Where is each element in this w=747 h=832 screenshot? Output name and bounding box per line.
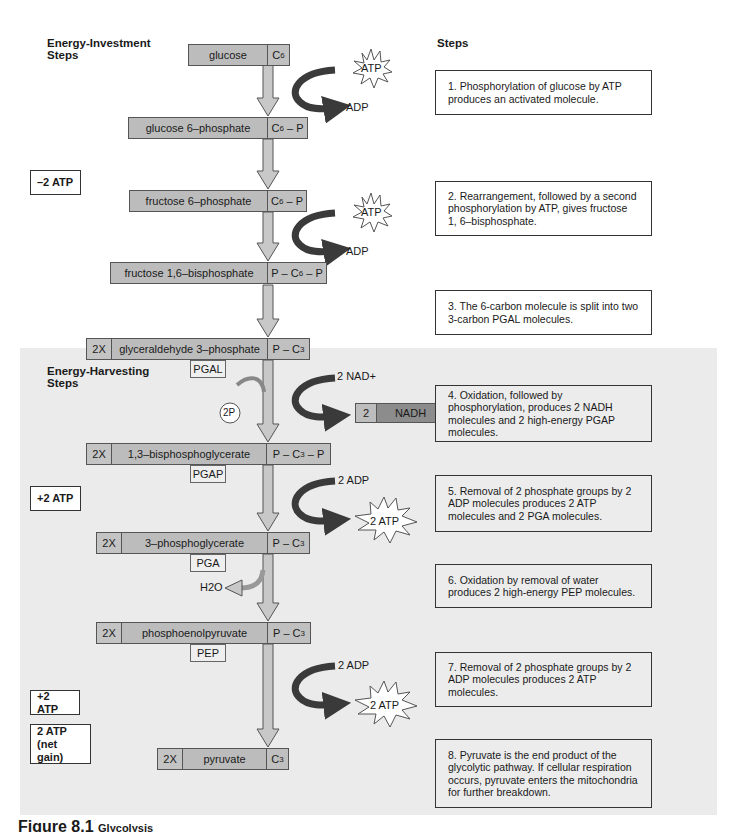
step-7-box: 7. Removal of 2 phosphate groups by 2 AD… xyxy=(435,652,652,707)
abbr-pep: PEP xyxy=(190,644,226,662)
nadh-label: NADH xyxy=(376,404,444,422)
water-output-label: H2O xyxy=(200,581,223,593)
atp-tally-harvest-2: +2 ATP xyxy=(30,690,80,715)
figure-caption: Figure 8.1 Glycolysis xyxy=(18,818,153,832)
curved-arrow-5 xyxy=(295,666,340,705)
step-5-box: 5. Removal of 2 phosphate groups by 2 AD… xyxy=(435,475,652,532)
nad-input-label: 2 NAD+ xyxy=(337,370,376,382)
formula: P – C3 xyxy=(267,339,309,359)
atp-input-label-1: ATP xyxy=(361,62,382,74)
step-2-box: 2. Rearrangement, followed by a second p… xyxy=(435,181,652,236)
phosphate-input-label: 2P xyxy=(223,407,235,418)
curved-arrow-1 xyxy=(295,70,340,109)
formula: C3 xyxy=(266,749,288,769)
abbr-pgal: PGAL xyxy=(190,360,226,378)
adp-input-label-2: 2 ADP xyxy=(338,659,369,671)
molecule-phosphoenolpyruvate: 2X phosphoenolpyruvate P – C3 xyxy=(96,622,311,644)
molecule-glyceraldehyde-3-phosphate: 2X glyceraldehyde 3–phosphate P – C3 xyxy=(86,338,310,360)
curved-arrow-3 xyxy=(295,378,340,417)
molecule-1-3-bisphosphoglycerate: 2X 1,3–bisphosphoglycerate P – C3 – P xyxy=(86,443,331,465)
molecule-fructose-1-6-bisphosphate: fructose 1,6–bisphosphate P – C6 – P xyxy=(110,262,327,284)
atp-tally-investment: –2 ATP xyxy=(30,170,81,195)
molecule-pyruvate: 2X pyruvate C3 xyxy=(157,748,289,770)
molecule-3-phosphoglycerate: 2X 3–phosphoglycerate P – C3 xyxy=(96,532,310,554)
formula: P – C3 – P xyxy=(266,444,330,464)
formula: P – C6 – P xyxy=(267,263,326,283)
formula: C6 – P xyxy=(267,118,307,138)
formula: P – C3 xyxy=(267,623,310,643)
step-8-box: 8. Pyruvate is the end product of the gl… xyxy=(435,739,652,808)
atp-input-label-2: ATP xyxy=(361,206,382,218)
step-6-box: 6. Oxidation by removal of water produce… xyxy=(435,564,652,608)
formula: P – C3 xyxy=(267,533,309,553)
nadh-product-box: 2 NADH xyxy=(355,403,445,423)
abbr-pga: PGA xyxy=(190,554,226,572)
molecule-fructose-6-phosphate: fructose 6–phosphate C6 – P xyxy=(129,190,307,212)
nadh-count: 2 xyxy=(356,404,376,422)
atp-tally-net-gain: 2 ATP (net gain) xyxy=(30,724,91,764)
atp-tally-harvest-1: +2 ATP xyxy=(30,486,81,511)
formula: C6 xyxy=(267,45,289,65)
step-4-box: 4. Oxidation, followed by phosphorylatio… xyxy=(435,385,652,442)
step-1-box: 1. Phosphorylation of glucose by ATP pro… xyxy=(435,70,652,115)
adp-output-label-2: ADP xyxy=(346,245,369,257)
step-3-box: 3. The 6-carbon molecule is split into t… xyxy=(435,290,652,335)
adp-output-label-1: ADP xyxy=(346,101,369,113)
figure-number: Figure 8.1 xyxy=(18,818,94,832)
figure-title: Glycolysis xyxy=(98,822,153,832)
formula: C6 – P xyxy=(267,191,306,211)
atp-output-label-2: 2 ATP xyxy=(370,699,399,711)
adp-input-label-1: 2 ADP xyxy=(338,474,369,486)
curved-arrow-4 xyxy=(295,481,340,521)
molecule-glucose: glucose C6 xyxy=(188,44,290,66)
atp-output-label-1: 2 ATP xyxy=(370,515,399,527)
abbr-pgap: PGAP xyxy=(190,465,226,483)
curved-arrow-2 xyxy=(295,213,340,252)
molecule-glucose-6-phosphate: glucose 6–phosphate C6 – P xyxy=(128,117,308,139)
